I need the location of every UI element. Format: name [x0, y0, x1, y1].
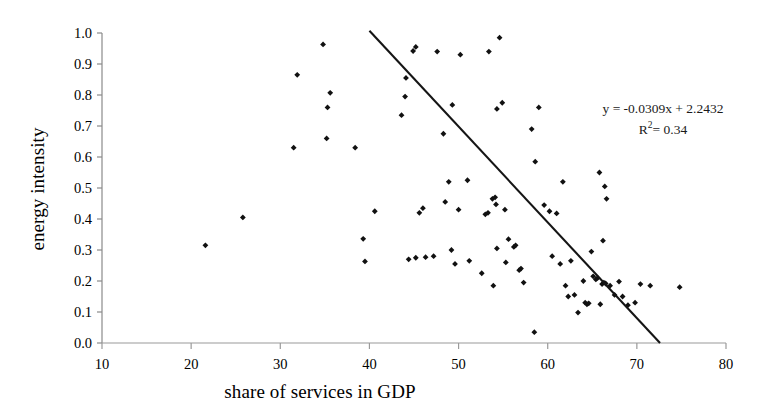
r-squared-value: = 0.34: [653, 122, 688, 137]
r-squared-label: R: [639, 122, 648, 137]
data-point: [503, 260, 509, 266]
data-point: [362, 259, 368, 265]
data-point: [529, 126, 535, 132]
x-axis-tick-label: 80: [719, 356, 734, 372]
data-point: [638, 281, 644, 287]
data-point: [420, 205, 426, 211]
plot-area: 0.00.10.20.30.40.50.60.70.80.91.01020304…: [0, 0, 772, 416]
trendline: [369, 31, 660, 343]
y-axis-tick-label: 0.3: [74, 242, 92, 258]
data-point: [602, 184, 608, 190]
regression-annotation: y = -0.0309x + 2.2432 R2= 0.34: [583, 100, 743, 138]
data-point: [506, 236, 512, 242]
data-point: [532, 159, 538, 165]
data-point: [497, 35, 503, 41]
data-point: [536, 105, 542, 111]
data-point: [486, 49, 492, 55]
data-point: [203, 242, 209, 248]
data-point: [291, 145, 297, 151]
data-point: [441, 131, 447, 137]
data-point: [406, 256, 412, 262]
y-axis-tick-label: 0.9: [74, 56, 92, 72]
data-point: [563, 283, 569, 289]
data-point: [568, 258, 574, 264]
data-point: [575, 310, 581, 316]
data-point: [434, 49, 440, 55]
data-point: [403, 75, 409, 81]
x-axis-tick-label: 10: [95, 356, 110, 372]
data-point: [616, 279, 622, 285]
data-point: [449, 247, 455, 253]
y-axis-tick-label: 0.8: [74, 87, 92, 103]
data-point: [457, 52, 463, 58]
data-point: [240, 215, 246, 221]
data-point: [452, 261, 458, 267]
data-point: [647, 283, 653, 289]
data-point: [413, 255, 419, 261]
data-point: [494, 246, 500, 252]
data-point: [423, 254, 429, 260]
data-point: [604, 196, 610, 202]
x-axis-tick-label: 30: [273, 356, 288, 372]
data-point: [399, 112, 405, 118]
data-point: [325, 105, 331, 111]
data-point: [597, 301, 603, 307]
y-axis-tick-label: 0.0: [74, 335, 92, 351]
y-axis-tick-label: 0.2: [74, 273, 92, 289]
x-axis-tick-label: 20: [184, 356, 199, 372]
data-point: [541, 202, 547, 208]
x-axis-tick-label: 50: [451, 356, 466, 372]
x-axis-title: share of services in GDP: [0, 381, 640, 403]
data-point: [360, 236, 366, 242]
data-point: [493, 202, 499, 208]
data-point: [531, 329, 537, 335]
data-point: [465, 177, 471, 183]
y-axis-title: energy intensity: [27, 89, 49, 289]
data-point: [572, 292, 578, 298]
data-point: [449, 102, 455, 108]
y-axis-tick-label: 0.1: [74, 304, 92, 320]
scatter-chart: 0.00.10.20.30.40.50.60.70.80.91.01020304…: [0, 0, 772, 416]
data-point: [456, 207, 462, 213]
data-point: [597, 170, 603, 176]
data-point: [466, 258, 472, 264]
data-point: [588, 249, 594, 255]
data-point: [620, 294, 626, 300]
data-point: [494, 106, 500, 112]
data-point: [490, 283, 496, 289]
data-point: [565, 294, 571, 300]
x-axis-tick-label: 60: [540, 356, 555, 372]
r-squared-line: R2= 0.34: [583, 117, 743, 138]
data-point: [521, 280, 527, 286]
data-point: [294, 72, 300, 78]
data-point: [547, 208, 553, 214]
x-axis-tick-label: 40: [362, 356, 377, 372]
data-point: [560, 179, 566, 185]
data-point: [549, 253, 555, 259]
x-axis-tick-label: 70: [630, 356, 645, 372]
y-axis-tick-label: 0.7: [74, 118, 92, 134]
data-point: [324, 136, 330, 142]
data-point: [352, 145, 358, 151]
data-point: [372, 208, 378, 214]
data-point: [446, 179, 452, 185]
data-point: [677, 284, 683, 290]
data-point: [416, 210, 422, 216]
y-axis-tick-label: 0.5: [74, 180, 92, 196]
data-point: [442, 199, 448, 205]
data-point: [632, 300, 638, 306]
data-point: [320, 42, 326, 48]
data-point: [557, 261, 563, 267]
data-point: [600, 238, 606, 244]
data-point: [327, 90, 333, 96]
regression-equation: y = -0.0309x + 2.2432: [603, 101, 724, 116]
data-point: [402, 94, 408, 100]
data-point: [499, 100, 505, 106]
y-axis-tick-label: 0.4: [74, 211, 93, 227]
data-point: [554, 211, 560, 217]
data-point: [580, 278, 586, 284]
data-point: [431, 253, 437, 259]
data-point: [502, 207, 508, 213]
data-point: [479, 270, 485, 276]
y-axis-tick-label: 1.0: [74, 25, 92, 41]
